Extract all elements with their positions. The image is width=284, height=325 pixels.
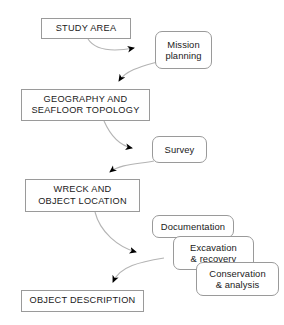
diagram-canvas: STUDY AREA GEOGRAPHY AND SEAFLOOR TOPOLO… [0,0,284,325]
arrow-study-area-to-mission-planning [88,39,134,50]
node-documentation-label: Documentation [158,221,228,232]
node-wreck-object-location[interactable]: WRECK AND OBJECT LOCATION [25,179,140,212]
arrow-wreck-to-documentation-group [95,212,136,252]
node-geography-seafloor-topology[interactable]: GEOGRAPHY AND SEAFLOOR TOPOLOGY [21,89,150,121]
node-study-area-label: STUDY AREA [53,23,120,34]
node-mission-planning[interactable]: Mission planning [155,31,212,69]
arrow-survey-to-wreck [110,161,154,172]
arrow-mission-planning-to-geography [119,62,157,81]
node-object-description[interactable]: OBJECT DESCRIPTION [21,290,144,312]
node-conservation-analysis[interactable]: Conservation & analysis [196,262,279,296]
node-wreck-object-location-label: WRECK AND OBJECT LOCATION [35,184,130,206]
node-study-area[interactable]: STUDY AREA [41,18,131,39]
node-mission-planning-label: Mission planning [162,39,204,62]
node-conservation-analysis-label: Conservation & analysis [206,268,268,291]
arrow-documentation-group-to-object-description [113,258,164,282]
node-object-description-label: OBJECT DESCRIPTION [27,295,139,306]
node-geography-seafloor-topology-label: GEOGRAPHY AND SEAFLOOR TOPOLOGY [28,94,142,116]
node-survey-label: Survey [162,144,198,155]
arrow-geography-to-survey [104,121,132,148]
node-survey[interactable]: Survey [152,136,207,163]
node-documentation[interactable]: Documentation [152,215,234,238]
